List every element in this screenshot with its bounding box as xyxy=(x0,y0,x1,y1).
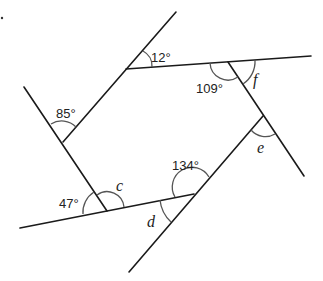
angle-label-47: 47° xyxy=(59,196,79,211)
angle-label-d: d xyxy=(147,213,156,230)
stray-dot xyxy=(1,17,3,19)
line-right-diagonal xyxy=(228,62,304,176)
angle-label-e: e xyxy=(257,139,264,156)
angle-label-85: 85° xyxy=(56,106,76,121)
line-top-left-diagonal xyxy=(63,12,176,142)
angle-arc-e xyxy=(251,130,275,137)
angle-label-c: c xyxy=(116,177,123,194)
angle-label-12: 12° xyxy=(151,50,171,65)
angle-label-109: 109° xyxy=(196,81,223,96)
line-bottom-right-diagonal xyxy=(129,116,263,272)
geometry-diagram: 12° 109° f 85° e 134° c 47° d xyxy=(0,0,323,281)
angle-arc-47 xyxy=(83,192,94,214)
angle-label-f: f xyxy=(253,71,260,89)
angle-label-134: 134° xyxy=(172,158,199,173)
angle-arc-d xyxy=(160,200,171,222)
angle-arc-85 xyxy=(51,121,76,127)
